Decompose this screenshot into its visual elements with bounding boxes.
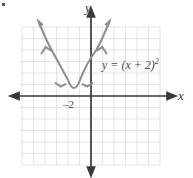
- x-axis-arrow-left: [10, 92, 19, 99]
- corner-mark: [2, 3, 5, 6]
- y-axis-label: y: [85, 0, 91, 16]
- parabola-curve: [39, 21, 110, 88]
- equation-text: y = (x + 2): [102, 58, 155, 72]
- graph-canvas: [0, 0, 193, 178]
- x-axis-arrow-right: [167, 92, 176, 99]
- curve-direction-markers: [42, 47, 107, 87]
- curve-arrow-left-end: [37, 18, 44, 27]
- curve-arrow-right-end: [104, 18, 111, 27]
- vertex-tick-label: –2: [63, 98, 74, 110]
- axes: [10, 8, 176, 176]
- y-axis-arrow-down: [87, 167, 94, 176]
- x-axis-label: x: [178, 88, 184, 104]
- curve-arrowheads: [37, 18, 112, 27]
- equation-exponent: 2: [155, 57, 159, 66]
- equation-label: y = (x + 2)2: [102, 57, 159, 73]
